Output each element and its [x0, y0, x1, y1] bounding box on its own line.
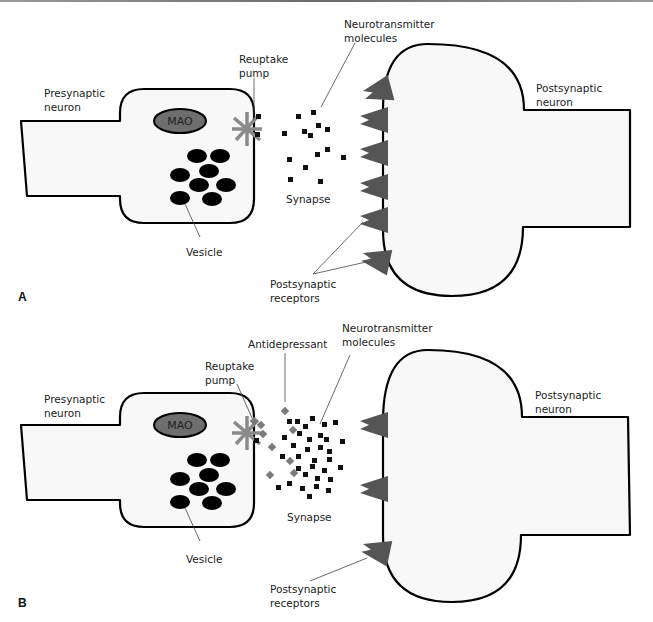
panel-label-b: B	[18, 596, 27, 610]
postsynaptic-neuron-label-b: Postsynaptic neuron	[535, 389, 605, 415]
mao-label-a: MAO	[167, 115, 193, 128]
panel-a: MAO	[18, 18, 630, 304]
neurotransmitter-molecules-b	[276, 416, 345, 499]
panel-b: MAO	[18, 322, 630, 610]
postsynaptic-receptors-b	[359, 412, 392, 566]
vesicle-label-b: Vesicle	[186, 553, 222, 565]
postsynaptic-neuron-b	[383, 350, 630, 602]
postsynaptic-receptors-label-b: Postsynaptic receptors	[270, 583, 340, 609]
reuptake-pump-label-a: Reuptake pump	[239, 53, 292, 79]
postsynaptic-receptors-label-a: Postsynaptic receptors	[270, 278, 340, 304]
vesicle-label-a: Vesicle	[186, 246, 222, 258]
synapse-diagram: MAO	[0, 0, 653, 622]
neurotransmitter-label-a: Neurotransmitter molecules	[344, 18, 438, 44]
presynaptic-neuron-label-b: Presynaptic neuron	[44, 393, 108, 419]
panel-label-a: A	[18, 290, 27, 304]
mao-label-b: MAO	[167, 419, 193, 432]
neurotransmitter-molecules-a	[282, 110, 346, 184]
antidepressant-label: Antidepressant	[248, 338, 327, 350]
presynaptic-neuron-label-a: Presynaptic neuron	[44, 87, 108, 113]
reuptake-pump-label-b: Reuptake pump	[205, 360, 258, 386]
neurotransmitter-label-b: Neurotransmitter molecules	[342, 322, 436, 348]
synapse-label-a: Synapse	[286, 193, 331, 205]
postsynaptic-neuron-label-a: Postsynaptic neuron	[536, 82, 606, 108]
synapse-label-b: Synapse	[287, 511, 332, 523]
